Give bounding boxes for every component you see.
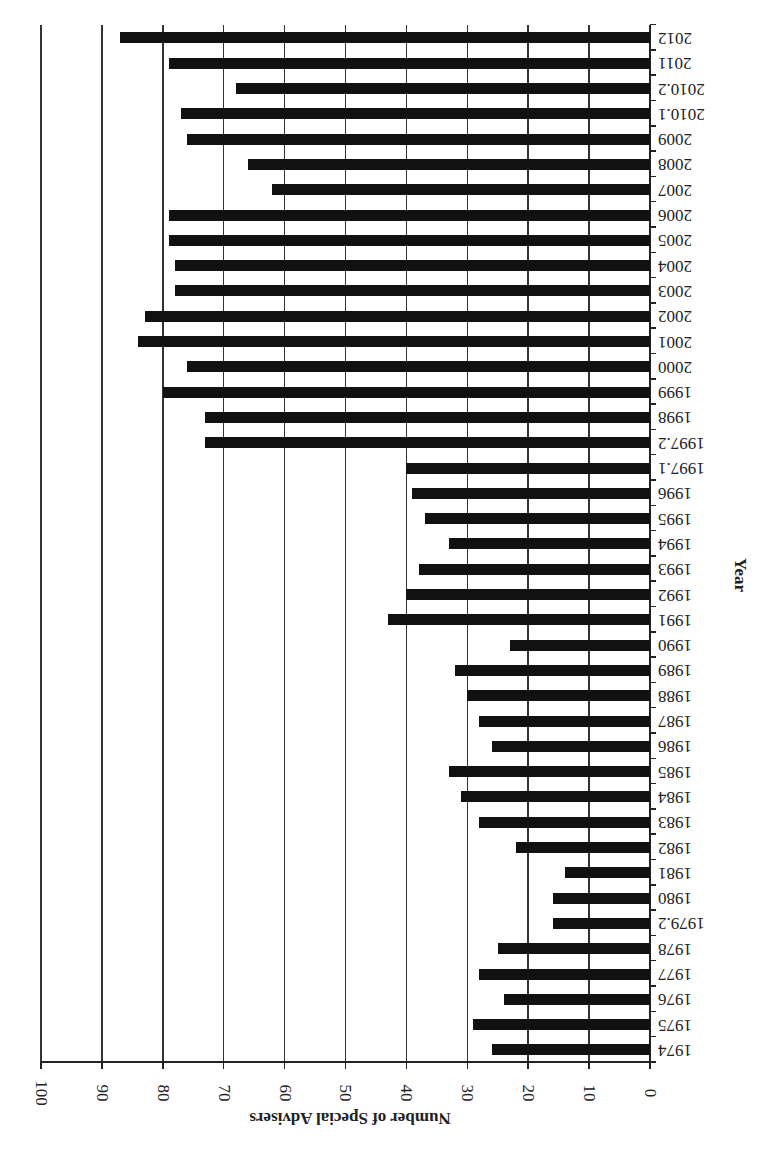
bar-2012 <box>120 33 650 44</box>
y-tick-1997.2 <box>650 454 656 456</box>
y-tick-label-2000: 2000 <box>658 357 718 377</box>
y-tick-label-1996: 1996 <box>658 483 718 503</box>
bar-1998 <box>205 412 650 423</box>
x-tick-label-10: 10 <box>579 1073 599 1113</box>
y-tick-label-1988: 1988 <box>658 686 718 706</box>
y-tick-2002 <box>650 327 656 329</box>
bar-1990 <box>510 640 650 651</box>
y-tick-label-1980: 1980 <box>658 888 718 908</box>
bar-1980 <box>553 893 650 904</box>
bar-2002 <box>145 311 650 322</box>
x-tick-label-70: 70 <box>214 1073 234 1113</box>
bar-2009 <box>187 134 650 145</box>
y-tick-1982 <box>650 859 656 861</box>
y-tick-label-1998: 1998 <box>658 408 718 428</box>
bar-2010.1 <box>181 108 650 119</box>
y-tick-end <box>650 24 656 26</box>
bar-1994 <box>449 539 650 550</box>
x-tick-label-50: 50 <box>336 1073 356 1113</box>
y-tick-label-1978: 1978 <box>658 939 718 959</box>
y-tick-2010.2 <box>650 100 656 102</box>
bar-1975 <box>473 1019 650 1030</box>
bar-1996 <box>413 488 651 499</box>
y-tick-label-1985: 1985 <box>658 762 718 782</box>
y-tick-label-1987: 1987 <box>658 711 718 731</box>
y-tick-2008 <box>650 176 656 178</box>
y-tick-1988 <box>650 707 656 709</box>
y-tick-label-1992: 1992 <box>658 585 718 605</box>
bar-2004 <box>175 260 650 271</box>
x-tick-label-0: 0 <box>640 1073 660 1113</box>
bar-1993 <box>419 564 650 575</box>
y-tick-label-2012: 2012 <box>658 28 718 48</box>
y-tick-1974 <box>650 1061 656 1063</box>
y-tick-label-1975: 1975 <box>658 1015 718 1035</box>
gridline-100 <box>40 25 42 1063</box>
y-tick-1975 <box>650 1036 656 1038</box>
bar-1977 <box>479 969 650 980</box>
y-tick-label-1993: 1993 <box>658 559 718 579</box>
y-tick-1987 <box>650 732 656 734</box>
bar-2007 <box>272 184 650 195</box>
bar-1976 <box>504 994 650 1005</box>
y-tick-label-1982: 1982 <box>658 838 718 858</box>
y-tick-2005 <box>650 252 656 254</box>
y-tick-label-2003: 2003 <box>658 281 718 301</box>
y-tick-label-1995: 1995 <box>658 509 718 529</box>
x-tick-90 <box>101 1063 103 1069</box>
bar-1995 <box>425 513 650 524</box>
y-tick-1985 <box>650 783 656 785</box>
x-tick-label-80: 80 <box>153 1073 173 1113</box>
y-tick-1979.2 <box>650 935 656 937</box>
bar-1997.1 <box>406 463 650 474</box>
gridline-90 <box>101 25 103 1063</box>
y-tick-1990 <box>650 656 656 658</box>
bar-1988 <box>467 690 650 701</box>
x-tick-20 <box>527 1063 529 1069</box>
y-tick-2006 <box>650 226 656 228</box>
y-tick-label-2004: 2004 <box>658 256 718 276</box>
x-tick-10 <box>588 1063 590 1069</box>
bar-1981 <box>565 867 650 878</box>
y-tick-2009 <box>650 150 656 152</box>
bar-2010.2 <box>236 83 650 94</box>
x-tick-30 <box>467 1063 469 1069</box>
y-tick-1986 <box>650 758 656 760</box>
y-tick-1993 <box>650 580 656 582</box>
gridline-40 <box>406 25 408 1063</box>
y-tick-label-2008: 2008 <box>658 155 718 175</box>
bar-2003 <box>175 286 650 297</box>
y-tick-label-2005: 2005 <box>658 230 718 250</box>
y-tick-label-1986: 1986 <box>658 736 718 756</box>
y-tick-1978 <box>650 960 656 962</box>
x-axis-line <box>41 1062 650 1064</box>
x-tick-50 <box>345 1063 347 1069</box>
y-tick-label-1997.2: 1997.2 <box>658 433 718 453</box>
y-tick-label-1989: 1989 <box>658 661 718 681</box>
y-tick-1999 <box>650 403 656 405</box>
y-tick-2003 <box>650 302 656 304</box>
y-tick-2011 <box>650 74 656 76</box>
x-tick-100 <box>40 1063 42 1069</box>
y-tick-1981 <box>650 884 656 886</box>
bar-1979.2 <box>553 918 650 929</box>
bar-2011 <box>169 58 650 69</box>
y-tick-label-1976: 1976 <box>658 989 718 1009</box>
y-tick-label-2006: 2006 <box>658 205 718 225</box>
special-advisers-bar-chart: Number of Special Advisers Year 01020304… <box>0 0 765 1168</box>
y-tick-label-2002: 2002 <box>658 306 718 326</box>
y-tick-label-1999: 1999 <box>658 382 718 402</box>
x-tick-40 <box>406 1063 408 1069</box>
y-tick-label-1974: 1974 <box>658 1040 718 1060</box>
y-tick-label-1994: 1994 <box>658 534 718 554</box>
bar-1989 <box>455 665 650 676</box>
y-tick-label-1990: 1990 <box>658 635 718 655</box>
y-axis-label: Year <box>730 545 750 605</box>
x-tick-label-90: 90 <box>92 1073 112 1113</box>
bar-1997.2 <box>205 437 650 448</box>
bar-2000 <box>187 361 650 372</box>
y-tick-1991 <box>650 631 656 633</box>
gridline-80 <box>162 25 164 1063</box>
bar-2001 <box>138 336 650 347</box>
y-tick-label-1984: 1984 <box>658 787 718 807</box>
